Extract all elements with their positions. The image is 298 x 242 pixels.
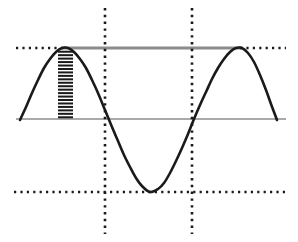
- guides-layer: [14, 8, 286, 234]
- chart-canvas: [0, 0, 298, 242]
- sine-wave-figure: [0, 0, 298, 242]
- amplitude-hatch-band: [58, 52, 73, 118]
